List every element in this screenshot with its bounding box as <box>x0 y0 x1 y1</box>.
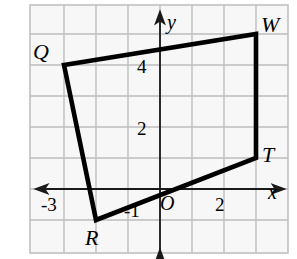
origin-label: O <box>160 193 174 213</box>
x-tick-label-2: 2 <box>215 195 225 214</box>
vertex-label-r: R <box>85 227 98 249</box>
vertex-label-q: Q <box>33 41 49 63</box>
x-axis-label: x <box>268 182 277 202</box>
y-axis-label: y <box>167 12 176 32</box>
vertex-label-w: W <box>261 14 279 36</box>
y-tick-label-2: 2 <box>137 119 147 138</box>
grid-background <box>30 5 288 253</box>
y-tick-label-neg1: -1 <box>124 201 140 220</box>
y-tick-label-4: 4 <box>137 57 147 76</box>
vertex-label-t: T <box>262 144 274 166</box>
x-tick-label-neg3: -3 <box>41 195 57 214</box>
coordinate-plane-figure: x y O -3 2 4 2 -1 Q R T W <box>0 0 297 259</box>
